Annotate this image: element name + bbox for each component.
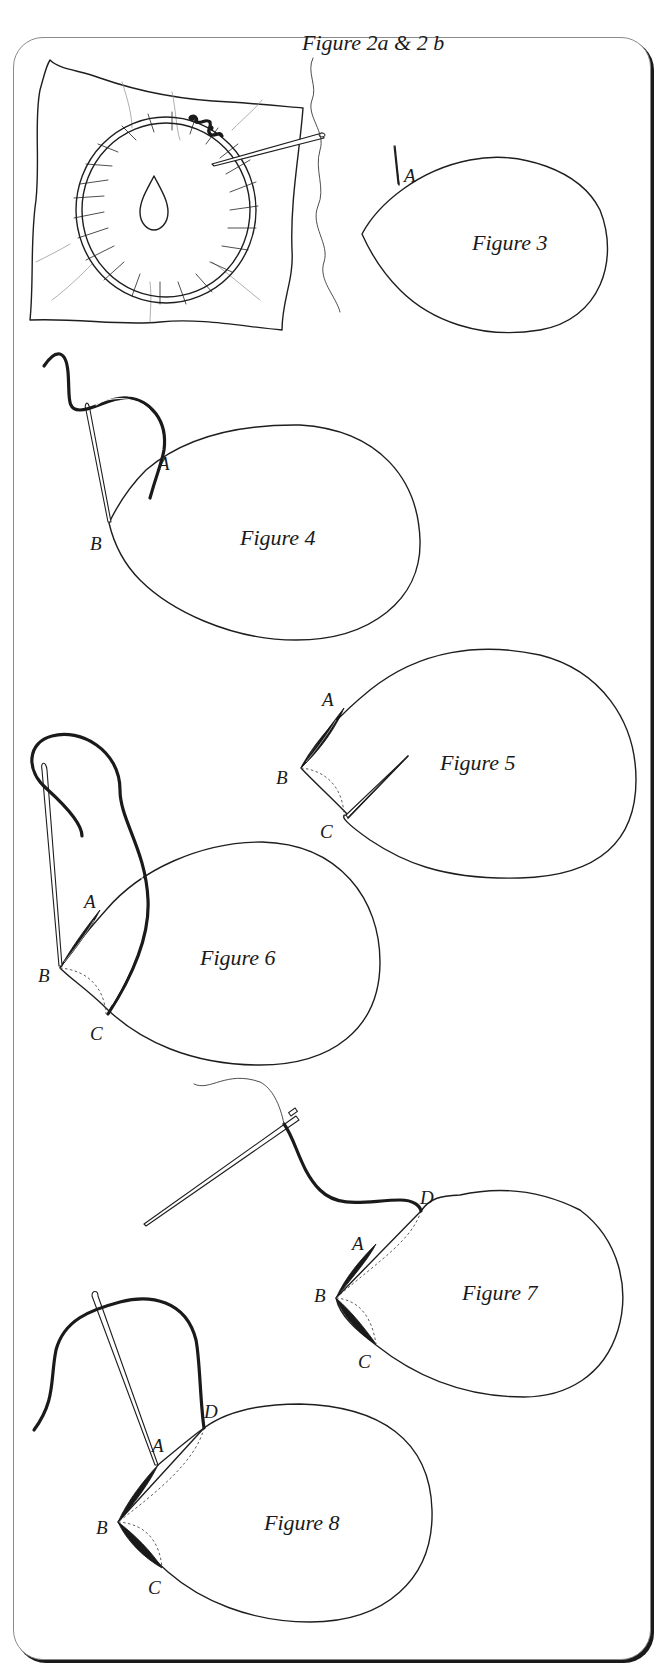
figure-2-hoop: Figure 2a & 2 b [30,30,444,330]
point-c: C [90,1023,103,1044]
point-d: D [419,1187,434,1208]
figure-3-title: Figure 3 [471,230,548,255]
point-b: B [90,533,102,554]
needle [92,1292,158,1466]
figure-4: A B Figure 4 [44,354,420,640]
point-a: A [320,689,334,710]
figure-4-title: Figure 4 [239,525,316,550]
point-a: A [82,891,96,912]
figure-8-title: Figure 8 [263,1510,340,1535]
stitch-b-c [118,1522,162,1568]
needle [144,1116,299,1226]
point-a: A [150,1435,164,1456]
figure-6: A B C Figure 6 [32,734,380,1065]
figure-5: A B C Figure 5 [276,649,636,878]
point-c: C [148,1577,161,1598]
thread-knot [209,126,214,131]
point-a: A [402,165,416,186]
needle [85,403,111,522]
hoop-inner-ring [82,123,250,297]
point-b: B [314,1285,326,1306]
thread [284,1124,421,1211]
embroidery-diagram: Figure 2a & 2 b A Figure 3 A B Figure 4 … [0,0,664,1667]
point-c: C [320,821,333,842]
figure-3: A Figure 3 [362,146,608,333]
needle [212,133,324,166]
figure-5-title: Figure 5 [439,750,516,775]
point-a: A [156,453,170,474]
figure-7-title: Figure 7 [461,1280,539,1305]
stitch-a-b [118,1465,158,1522]
petal-outline-small [140,176,168,230]
point-d: D [203,1401,218,1422]
point-c: C [358,1351,371,1372]
point-b: B [38,965,50,986]
point-a: A [350,1233,364,1254]
loose-thread [311,58,340,312]
figure-6-title: Figure 6 [199,945,276,970]
point-b: B [96,1517,108,1538]
figure-7: D A B C Figure 7 [144,1078,623,1397]
point-b: B [276,767,288,788]
thread [44,354,165,498]
thread-knot [189,115,195,121]
figure-2-title: Figure 2a & 2 b [301,30,444,55]
stitch-a-b [301,708,344,768]
